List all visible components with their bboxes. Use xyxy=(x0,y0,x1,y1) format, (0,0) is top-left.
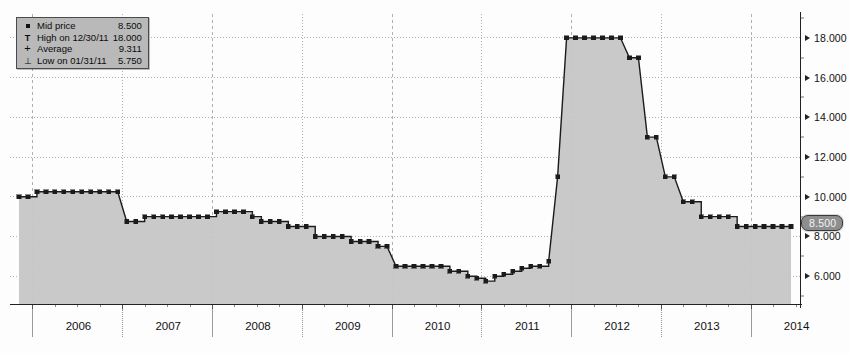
y-axis-label: 12.000 xyxy=(814,151,847,163)
low-marker-icon: ⊥ xyxy=(20,55,35,67)
x-axis-label: 2007 xyxy=(155,320,181,332)
current-price-badge[interactable]: 8.500 xyxy=(801,215,843,231)
y-axis-tick xyxy=(805,194,810,200)
y-axis-label: 8.000 xyxy=(814,230,841,242)
x-axis-label: 2012 xyxy=(604,320,630,332)
legend-row-mid-price: Mid price 8.500 xyxy=(20,20,144,32)
x-axis-label: 2014 xyxy=(784,320,810,332)
y-axis-label: 16.000 xyxy=(814,72,847,84)
legend-row-high: T High on 12/30/11 18.000 xyxy=(20,32,144,44)
y-axis-tick xyxy=(805,75,810,81)
x-axis-separator xyxy=(302,309,303,337)
y-axis-spine xyxy=(800,12,801,308)
x-axis-spine xyxy=(10,304,802,305)
x-axis-label: 2011 xyxy=(515,320,540,332)
y-axis: 8.500 6.0008.00010.00012.00014.00016.000… xyxy=(800,14,850,308)
y-axis-tick xyxy=(805,233,810,239)
legend-value: 9.311 xyxy=(111,43,144,55)
x-axis-separator xyxy=(32,309,33,337)
y-axis-tick xyxy=(805,114,810,120)
x-axis-separator xyxy=(392,309,393,337)
y-axis-label: 14.000 xyxy=(814,111,847,123)
x-axis-label: 2009 xyxy=(335,320,361,332)
legend-value: 8.500 xyxy=(111,20,144,32)
x-axis-label: 2008 xyxy=(245,320,271,332)
x-axis-separator xyxy=(212,309,213,337)
legend-label: Low on 01/31/11 xyxy=(35,55,111,67)
y-axis-tick xyxy=(805,154,810,160)
x-axis-separator xyxy=(661,309,662,337)
x-axis-separator xyxy=(122,309,123,337)
legend-box[interactable]: Mid price 8.500 T High on 12/30/11 18.00… xyxy=(16,17,149,69)
legend-label: High on 12/30/11 xyxy=(35,32,111,44)
legend-row-average: + Average 9.311 xyxy=(20,43,144,55)
price-chart: Mid price 8.500 T High on 12/30/11 18.00… xyxy=(0,0,850,353)
legend-row-low: ⊥ Low on 01/31/11 5.750 xyxy=(20,55,144,67)
average-marker-icon: + xyxy=(20,43,35,55)
legend-value: 5.750 xyxy=(111,55,144,67)
square-marker-icon xyxy=(20,20,35,32)
y-axis-tick xyxy=(805,273,810,279)
y-axis-label: 10.000 xyxy=(814,191,847,203)
y-axis-label: 18.000 xyxy=(814,32,847,44)
x-axis-label: 2013 xyxy=(694,320,720,332)
y-axis-tick xyxy=(805,35,810,41)
x-axis-label: 2010 xyxy=(425,320,451,332)
x-axis-label: 2006 xyxy=(66,320,92,332)
legend-label: Average xyxy=(35,43,111,55)
legend-table: Mid price 8.500 T High on 12/30/11 18.00… xyxy=(20,20,144,66)
x-axis-separator xyxy=(751,309,752,337)
legend-label: Mid price xyxy=(35,20,111,32)
y-axis-label: 6.000 xyxy=(814,270,841,282)
x-axis-separator xyxy=(571,309,572,337)
x-axis-separator xyxy=(481,309,482,337)
legend-value: 18.000 xyxy=(111,32,144,44)
x-axis: 200620072008200920102011201220132014 xyxy=(10,304,800,350)
